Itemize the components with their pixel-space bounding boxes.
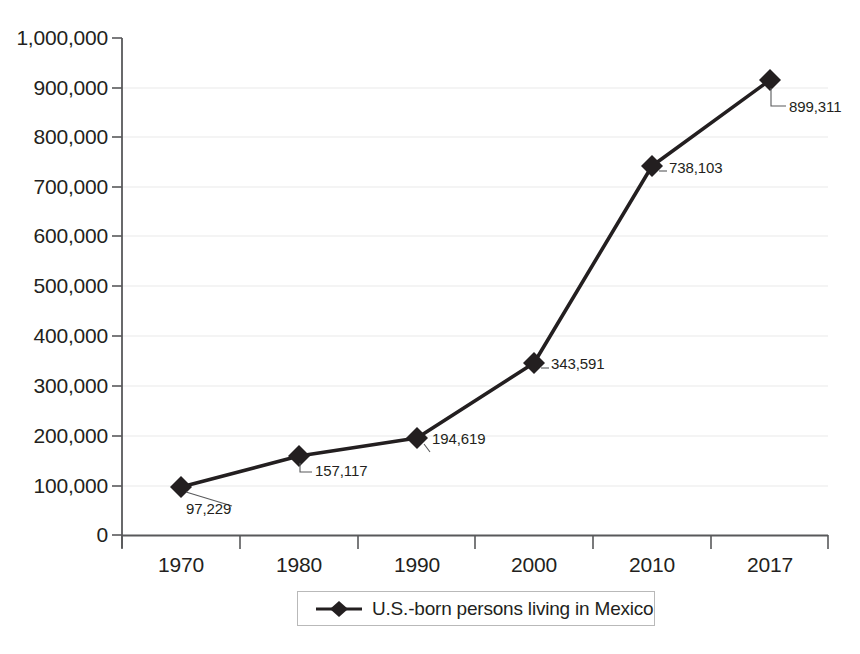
data-label-1970: 97,229 — [186, 500, 231, 517]
x-axis-tick-label: 2017 — [730, 553, 810, 577]
y-axis-tick-label: 600,000 — [0, 224, 108, 248]
data-point-1970 — [170, 476, 192, 498]
y-axis-tick-label: 900,000 — [0, 76, 108, 100]
y-axis-tick-label: 300,000 — [0, 374, 108, 398]
y-axis-tick-label: 700,000 — [0, 175, 108, 199]
y-axis-tick-label: 0 — [0, 523, 108, 547]
x-axis-tick-label: 1980 — [259, 553, 339, 577]
legend-label: U.S.-born persons living in Mexico — [372, 598, 653, 620]
leader-1980 — [300, 463, 312, 472]
data-point-1980 — [288, 445, 310, 467]
y-axis-tick-label: 1,000,000 — [0, 26, 108, 50]
y-axis-tick-label: 200,000 — [0, 424, 108, 448]
data-label-1980: 157,117 — [315, 462, 367, 479]
y-axis-ticks — [112, 38, 122, 535]
data-label-2000: 343,591 — [551, 355, 605, 372]
x-axis-ticks — [122, 535, 828, 549]
data-label-1990: 194,619 — [432, 430, 486, 447]
y-axis-tick-label: 400,000 — [0, 324, 108, 348]
y-axis-tick-label: 800,000 — [0, 125, 108, 149]
chart-legend: U.S.-born persons living in Mexico — [297, 591, 655, 626]
y-axis-tick-label: 100,000 — [0, 474, 108, 498]
legend-series-marker-icon — [314, 600, 364, 618]
label-leader-lines — [186, 88, 786, 506]
data-label-2010: 738,103 — [669, 159, 723, 176]
x-axis-tick-label: 1970 — [141, 553, 221, 577]
y-axis-tick-label: 500,000 — [0, 274, 108, 298]
chart-figure: 1,000,000 900,000 800,000 700,000 600,00… — [0, 0, 860, 654]
data-line-series-1 — [181, 80, 770, 487]
data-point-2000 — [523, 352, 545, 374]
data-label-2017: 899,311 — [789, 98, 841, 115]
leader-1990 — [424, 444, 430, 452]
x-axis-tick-label: 2000 — [494, 553, 574, 577]
leader-2017 — [771, 88, 786, 106]
x-axis-tick-label: 1990 — [377, 553, 457, 577]
gridlines — [122, 88, 828, 486]
x-axis-tick-label: 2010 — [612, 553, 692, 577]
